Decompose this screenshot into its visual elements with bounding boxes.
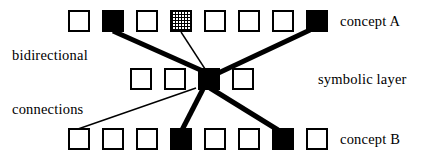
- side-label-connections: connections: [12, 102, 83, 117]
- edge-hub-b7: [210, 88, 278, 130]
- node-concept-a-5: [204, 10, 226, 32]
- node-symbolic-1: [130, 68, 152, 90]
- node-concept-b-7: [272, 128, 294, 150]
- node-concept-b-3: [136, 128, 158, 150]
- neural-symbolic-architecture-diagram: concept A symbolic layer concept B bidir…: [0, 0, 431, 158]
- node-concept-b-5: [204, 128, 226, 150]
- row-label-concept-a: concept A: [340, 14, 400, 29]
- node-concept-b-8: [306, 128, 328, 150]
- edge-hub-b1: [78, 88, 196, 129]
- node-concept-b-4: [170, 128, 192, 150]
- node-concept-a-6: [238, 10, 260, 32]
- node-concept-a-8: [306, 10, 328, 32]
- edge-a4-hub: [181, 32, 207, 72]
- node-concept-a-3: [136, 10, 158, 32]
- node-concept-a-1: [68, 10, 90, 32]
- node-symbolic-3: [198, 68, 220, 90]
- node-concept-a-4: [170, 10, 192, 32]
- node-concept-b-2: [102, 128, 124, 150]
- edge-a8-hub: [212, 30, 310, 76]
- node-concept-a-2: [102, 10, 124, 32]
- edge-a2-hub: [113, 31, 205, 72]
- row-label-concept-b: concept B: [340, 132, 400, 147]
- node-symbolic-2: [164, 68, 186, 90]
- row-label-symbolic-layer: symbolic layer: [318, 72, 407, 87]
- node-concept-a-7: [272, 10, 294, 32]
- node-concept-b-1: [68, 128, 90, 150]
- side-label-bidirectional: bidirectional: [12, 48, 88, 63]
- node-concept-b-6: [238, 128, 260, 150]
- edge-hub-b4: [182, 89, 203, 130]
- node-symbolic-4: [232, 68, 254, 90]
